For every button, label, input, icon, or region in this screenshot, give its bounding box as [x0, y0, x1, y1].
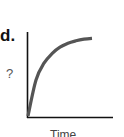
- x-axis-label: Time: [50, 129, 76, 137]
- data-curve: [28, 38, 92, 116]
- plot-area: [0, 0, 124, 137]
